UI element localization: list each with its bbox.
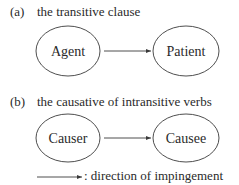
causer-label: Causer — [49, 131, 88, 146]
diagram-canvas: Agent Patient Causer Causee — [0, 0, 239, 185]
patient-label: Patient — [167, 44, 206, 59]
panel-b-diagram: Causer Causee — [36, 114, 219, 162]
causee-node: Causee — [153, 114, 219, 162]
panel-a-diagram: Agent Patient — [36, 26, 219, 76]
agent-label: Agent — [51, 44, 85, 59]
agent-node: Agent — [36, 26, 100, 76]
legend-text: : direction of impingement — [84, 168, 223, 184]
causer-node: Causer — [36, 114, 100, 162]
patient-node: Patient — [153, 26, 219, 76]
causee-label: Causee — [166, 131, 206, 146]
